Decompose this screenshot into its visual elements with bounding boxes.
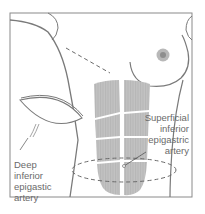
flap-vessel — [30, 124, 39, 137]
label-line: artery — [137, 145, 189, 156]
superficial-artery-point — [123, 165, 126, 168]
label-line: artery — [14, 192, 64, 203]
label-line: Deep — [14, 159, 64, 170]
label-superficial-inferior-epigastric-artery: Superficial inferior epigastric artery — [137, 112, 189, 156]
label-line: inferior — [137, 123, 189, 134]
deep-leader-line — [20, 138, 28, 150]
dashed-line-upper — [66, 48, 110, 73]
right-body-outline — [186, 16, 192, 40]
label-line: Superficial — [137, 112, 189, 123]
label-line: epigastic — [14, 181, 64, 192]
breast-outline — [130, 35, 189, 86]
label-line: inferior — [14, 170, 64, 181]
left-shoulder-curve — [48, 13, 58, 40]
nipple — [160, 52, 166, 58]
flap-outline — [20, 97, 82, 123]
label-deep-inferior-epigastric-artery: Deep inferior epigastic artery — [14, 159, 64, 203]
label-line: epigastric — [137, 134, 189, 145]
